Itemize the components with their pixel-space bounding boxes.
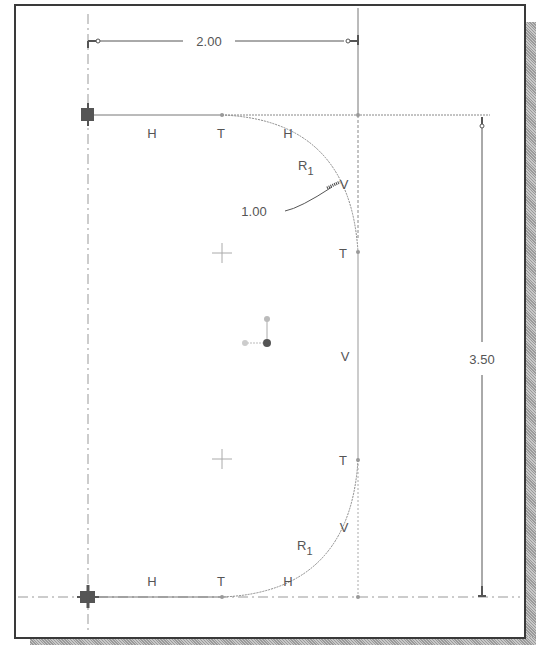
tangent-point-top[interactable] xyxy=(220,113,224,117)
constraint-radius-bottom[interactable]: R1 xyxy=(297,538,313,557)
tangent-point-upper-right[interactable] xyxy=(356,250,360,254)
sketch-triad-icon xyxy=(242,316,271,347)
radius-dimension-value[interactable]: 1.00 xyxy=(241,204,266,219)
constraint-radius-top[interactable]: R1 xyxy=(298,158,314,177)
height-dimension[interactable]: 3.50 xyxy=(469,117,494,597)
constraint-vertical-top[interactable]: V xyxy=(340,177,349,192)
constraint-tangent-bottom[interactable]: T xyxy=(217,574,225,589)
origin-marker-top[interactable] xyxy=(81,103,94,126)
width-dimension-value[interactable]: 2.00 xyxy=(196,34,221,49)
sketch-canvas: 2.00 3.50 1.00 H T H R1 V T V T V R1 H T… xyxy=(0,0,541,645)
arc-center-bottom-crosshair xyxy=(212,449,232,469)
constraint-tangent-top[interactable]: T xyxy=(217,126,225,141)
radius-dimension[interactable]: 1.00 xyxy=(241,182,340,219)
origin-marker-bottom[interactable] xyxy=(77,585,99,608)
constraint-horizontal-top-left[interactable]: H xyxy=(147,126,156,141)
tangent-point-lower-right[interactable] xyxy=(356,458,360,462)
constraint-horizontal-top-right[interactable]: H xyxy=(283,126,292,141)
constraint-horizontal-bottom-left[interactable]: H xyxy=(147,574,156,589)
constraint-vertical-middle[interactable]: V xyxy=(341,349,350,364)
arc-center-top-crosshair xyxy=(212,243,232,263)
constraint-horizontal-bottom-right[interactable]: H xyxy=(283,574,292,589)
constraint-vertical-bottom[interactable]: V xyxy=(340,520,349,535)
corner-point-top[interactable] xyxy=(356,113,360,117)
width-dimension[interactable]: 2.00 xyxy=(88,34,358,49)
constraint-tangent-lower-right[interactable]: T xyxy=(339,453,347,468)
tangent-point-bottom[interactable] xyxy=(220,595,224,599)
constraint-tangent-upper-right[interactable]: T xyxy=(339,246,347,261)
height-dimension-value[interactable]: 3.50 xyxy=(469,352,494,367)
corner-point-bottom[interactable] xyxy=(356,595,360,599)
